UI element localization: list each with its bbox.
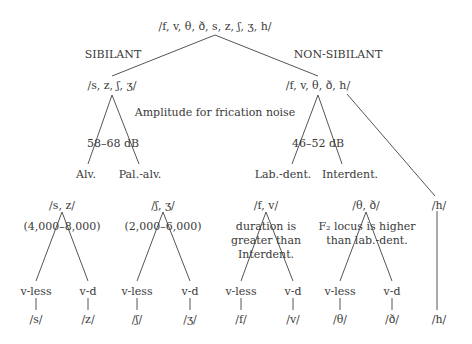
- voicing-voiced: v-d: [285, 285, 302, 298]
- annotation-sh-zh: (2,000–6,000): [124, 220, 201, 234]
- voicing-voiced: v-d: [80, 285, 97, 298]
- sibilant-node: /s, z, ʃ, ʒ/: [87, 79, 136, 92]
- voicing-voiceless: v-less: [121, 285, 152, 298]
- leaf-theta: /θ/: [333, 313, 347, 326]
- sibilant-label: SIBILANT: [85, 48, 142, 61]
- place-labiodental: Lab.-dent.: [255, 168, 312, 181]
- sibilant-amplitude: 58–68 dB: [87, 137, 139, 150]
- non-sibilant-amplitude: 46–52 dB: [292, 137, 344, 150]
- group-node-th-dh: /θ, ð/: [352, 199, 380, 212]
- voicing-voiced: v-d: [182, 285, 199, 298]
- place-interdental: Interdent.: [322, 168, 378, 181]
- voicing-voiceless: v-less: [324, 285, 355, 298]
- amplitude-caption: Amplitude for frication noise: [135, 106, 296, 119]
- voicing-voiceless: v-less: [20, 285, 51, 298]
- non-sibilant-label: NON-SIBILANT: [294, 48, 383, 61]
- place-palato-alveolar: Pal.-alv.: [119, 168, 162, 181]
- leaf-sh: /ʃ/: [132, 313, 142, 326]
- annotation-s-z: (4,000–8,000): [23, 220, 100, 234]
- annotation-th-dh: F₂ locus is higher than lab.-dent.: [318, 220, 415, 248]
- leaf-v: /v/: [286, 313, 300, 326]
- voicing-voiceless: v-less: [225, 285, 256, 298]
- leaf-z: /z/: [81, 313, 94, 326]
- root-node: /f, v, θ, ð, s, z, ʃ, ʒ, h/: [159, 20, 272, 33]
- group-node-f-v: /f, v/: [254, 199, 278, 212]
- group-node-s-z: /s, z/: [49, 199, 75, 212]
- non-sibilant-node: /f, v, θ, ð, h/: [286, 79, 350, 92]
- annotation-f-v: duration is greater than Interdent.: [231, 220, 301, 262]
- leaf-h: /h/: [432, 313, 447, 326]
- leaf-zh: /ʒ/: [183, 313, 197, 326]
- group-node-sh-zh: /ʃ, ʒ/: [151, 199, 175, 212]
- group-node-h: /h/: [432, 199, 447, 212]
- place-alveolar: Alv.: [76, 168, 96, 181]
- leaf-eth: /ð/: [385, 313, 399, 326]
- voicing-voiced: v-d: [384, 285, 401, 298]
- leaf-f: /f/: [235, 313, 246, 326]
- leaf-s: /s/: [29, 313, 42, 326]
